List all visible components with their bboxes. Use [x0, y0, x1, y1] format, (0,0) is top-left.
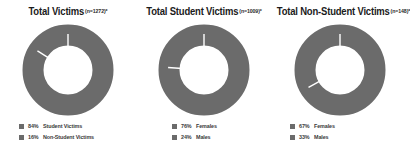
legend-swatch-icon — [19, 135, 24, 140]
legend-swatch-icon — [290, 124, 295, 129]
page-title: Total Victims(n=1272)* — [5, 6, 131, 17]
legend-swatch-icon — [19, 124, 24, 129]
legend-percent: 76% — [181, 123, 196, 129]
legend-item: 76% Females — [172, 121, 217, 131]
donut-chart-container — [272, 24, 408, 116]
legend-item: 84% Student Victims — [19, 121, 82, 131]
donut-chart — [158, 24, 250, 116]
legend-label: Non-Student Victims — [43, 134, 94, 140]
legend-label: Males — [314, 134, 328, 140]
legend-label: Females — [314, 123, 335, 129]
legend-percent: 33% — [299, 134, 314, 140]
donut-chart-container — [0, 24, 136, 116]
legend-label: Males — [196, 134, 210, 140]
donut-chart-svg — [22, 24, 114, 116]
donut-chart-container — [136, 24, 272, 116]
panel-title-main: Total Victims — [28, 6, 84, 17]
legend-swatch-icon — [172, 135, 177, 140]
legend-percent: 67% — [299, 123, 314, 129]
legend-percent: 16% — [28, 134, 43, 140]
donut-gap-split — [168, 67, 182, 68]
donut-chart-svg — [158, 24, 250, 116]
page-title: Total Non-Student Victims(n=148)* — [277, 6, 403, 17]
legend-item: 24% Males — [172, 132, 210, 142]
panel-title-note: (n=1009)* — [239, 8, 261, 14]
legend-percent: 84% — [28, 123, 43, 129]
donut-chart — [22, 24, 114, 116]
donut-chart-svg — [294, 24, 386, 116]
chart-panel-total-student-victims: Total Student Victims(n=1009)* 76% Femal… — [136, 0, 272, 160]
page-title: Total Student Victims(n=1009)* — [141, 6, 267, 17]
panel-title-note: (n=1272)* — [85, 8, 107, 14]
donut-gap-line — [168, 67, 182, 68]
chart-panel-total-victims: Total Victims(n=1272)* 84% Student Victi… — [0, 0, 136, 160]
legend-item: 33% Males — [290, 132, 328, 142]
chart-legend: 67% Females 33% Males — [272, 121, 408, 143]
legend-label: Females — [196, 123, 217, 129]
panel-title-main: Total Non-Student Victims — [277, 6, 390, 17]
panel-title-note: (n=148)* — [391, 8, 410, 14]
panel-title-main: Total Student Victims — [146, 6, 238, 17]
chart-legend: 84% Student Victims 16% Non-Student Vict… — [0, 121, 136, 143]
chart-panel-total-non-student-victims: Total Non-Student Victims(n=148)* 67% Fe… — [272, 0, 408, 160]
legend-label: Student Victims — [43, 123, 82, 129]
donut-chart — [294, 24, 386, 116]
legend-item: 67% Females — [290, 121, 335, 131]
chart-legend: 76% Females 24% Males — [136, 121, 272, 143]
legend-swatch-icon — [172, 124, 177, 129]
legend-swatch-icon — [290, 135, 295, 140]
legend-item: 16% Non-Student Victims — [19, 132, 94, 142]
legend-percent: 24% — [181, 134, 196, 140]
